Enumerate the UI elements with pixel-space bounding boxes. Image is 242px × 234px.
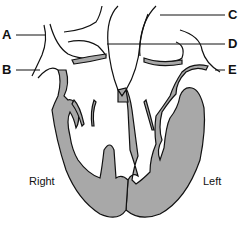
leader-lines	[16, 15, 225, 70]
label-e: E	[228, 62, 237, 77]
heart-diagram	[0, 0, 242, 234]
label-c: C	[228, 7, 237, 22]
label-a: A	[2, 27, 11, 42]
label-b: B	[2, 62, 11, 77]
label-right-side: Right	[29, 175, 55, 187]
heart-muscle	[52, 54, 208, 217]
label-left-side: Left	[203, 175, 221, 187]
label-d: D	[228, 36, 237, 51]
